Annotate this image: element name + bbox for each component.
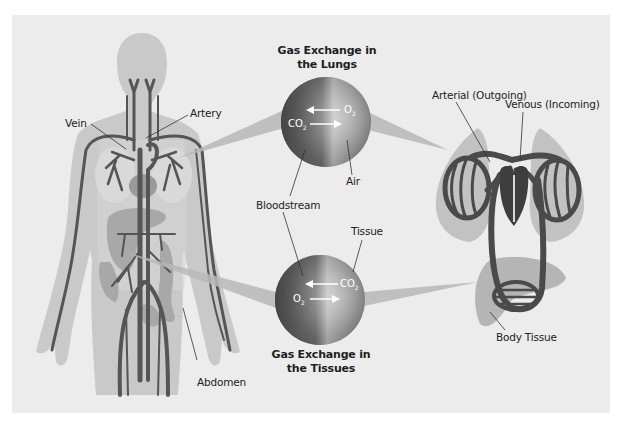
- vein-label: Vein: [65, 117, 87, 129]
- abdomen-label: Abdomen: [197, 376, 246, 388]
- tissues-title-line2: the Tissues: [266, 362, 376, 376]
- body-tissue-shape: [475, 257, 566, 326]
- o2-text: O: [293, 293, 301, 304]
- co2-subscript: 2: [303, 124, 307, 131]
- venous-label: Venous (Incoming): [505, 98, 600, 110]
- air-label: Air: [346, 175, 360, 187]
- o2-text: O: [344, 104, 352, 115]
- lungs-title-line2: the Lungs: [272, 58, 382, 72]
- lungs-o2-label: O2: [344, 104, 356, 117]
- co2-text: CO: [288, 118, 303, 129]
- heart: [129, 174, 157, 198]
- o2-subscript: 2: [301, 299, 305, 306]
- co2-subscript: 2: [355, 284, 359, 291]
- body-tissue-label: Body Tissue: [496, 331, 557, 343]
- artery-label: Artery: [190, 107, 221, 119]
- tissue-label: Tissue: [351, 225, 383, 237]
- tissues-exchange-title: Gas Exchange in the Tissues: [266, 348, 376, 376]
- lungs-exchange-title: Gas Exchange in the Lungs: [272, 44, 382, 72]
- bloodstream-label: Bloodstream: [256, 199, 320, 211]
- tissues-o2-label: O2: [293, 293, 305, 306]
- co2-text: CO: [340, 278, 355, 289]
- tissues-co2-label: CO2: [340, 278, 359, 291]
- tissues-exchange-sphere: [275, 255, 365, 345]
- o2-subscript: 2: [352, 110, 356, 117]
- human-body-figure: [36, 33, 240, 395]
- lungs-title-line1: Gas Exchange in: [272, 44, 382, 58]
- tissues-title-line1: Gas Exchange in: [266, 348, 376, 362]
- lungs-co2-label: CO2: [288, 118, 307, 131]
- circulation-circuit: [436, 128, 584, 326]
